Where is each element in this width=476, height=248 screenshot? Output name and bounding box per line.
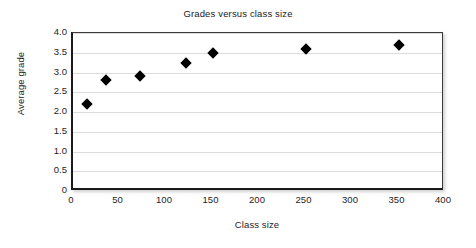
x-tick-label: 100	[144, 194, 184, 205]
x-tick-label: 150	[191, 194, 231, 205]
x-tick-label: 250	[284, 194, 324, 205]
chart-figure: Grades versus class size Average grade 0…	[0, 0, 476, 248]
y-tick-label: 3.5	[37, 47, 67, 57]
y-axis-ticks: 00.51.01.52.02.53.03.54.0	[33, 32, 67, 190]
gridline	[73, 171, 442, 172]
data-point	[207, 47, 218, 58]
gridline	[73, 92, 442, 93]
data-point	[180, 57, 191, 68]
x-tick-label: 0	[51, 194, 91, 205]
y-tick-label: 4.0	[37, 27, 67, 37]
y-tick-label: 1.5	[37, 126, 67, 136]
gridline	[73, 112, 442, 113]
data-point	[393, 39, 404, 50]
x-tick-label: 400	[423, 194, 463, 205]
y-tick-label: 1.0	[37, 146, 67, 156]
y-tick-label: 2.5	[37, 86, 67, 96]
y-tick-label: 2.0	[37, 106, 67, 116]
gridline	[73, 33, 442, 34]
plot-area	[71, 32, 443, 190]
chart-title: Grades versus class size	[0, 8, 476, 19]
y-tick-label: 3.0	[37, 67, 67, 77]
x-tick-label: 350	[377, 194, 417, 205]
x-tick-label: 50	[98, 194, 138, 205]
gridline	[73, 53, 442, 54]
data-point	[81, 98, 92, 109]
data-point	[100, 75, 111, 86]
gridline	[73, 152, 442, 153]
x-axis-label: Class size	[71, 219, 443, 230]
x-axis-ticks: 050100150200250300350400	[71, 194, 443, 208]
y-tick-label: 0.5	[37, 165, 67, 175]
x-tick-label: 300	[330, 194, 370, 205]
x-tick-label: 200	[237, 194, 277, 205]
gridline	[73, 132, 442, 133]
y-axis-label: Average grade	[15, 24, 26, 144]
gridline	[73, 73, 442, 74]
